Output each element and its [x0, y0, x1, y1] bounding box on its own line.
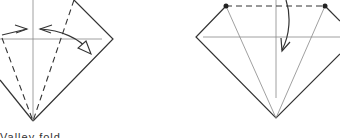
diagonal-crease-left [226, 6, 276, 118]
diagonal-crease-right [276, 6, 325, 118]
paper-outline-right [195, 6, 197, 7]
arrowhead-right-hollow [78, 41, 91, 54]
step-caption: Valley fold [0, 131, 61, 138]
paper-outline-left [33, 0, 113, 121]
step-left-diagram [0, 0, 113, 121]
reference-point-right [323, 4, 328, 9]
fold-down-arrow [282, 0, 289, 50]
origami-diagram [0, 0, 340, 138]
step-right-diagram [195, 0, 340, 118]
arrowhead-down [281, 38, 290, 51]
paper-outline-left-lower [0, 80, 33, 121]
top-edge-right [325, 6, 340, 21]
reference-point-left [224, 4, 229, 9]
valley-fold-right [33, 0, 74, 121]
paper-outline-right-main [196, 6, 340, 118]
valley-fold-left [2, 38, 33, 121]
